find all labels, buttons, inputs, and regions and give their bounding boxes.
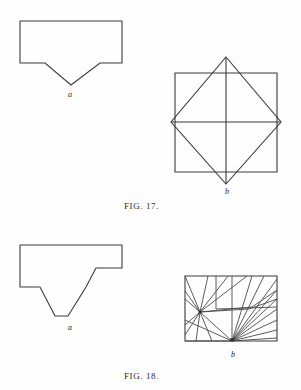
fig-17-a-shape — [20, 21, 122, 85]
fig-18-b-left-fan-point — [199, 311, 202, 314]
fig-18-b-cross-lines — [185, 276, 277, 341]
fig-18-b-point-label: b — [231, 351, 235, 359]
fig-18-b-shape — [185, 276, 277, 341]
fig-17-a-point-label: a — [68, 91, 72, 99]
fig-17-b-point-label: b — [225, 188, 229, 196]
page-canvas: a b a b FIG. 17. FIG. 18. — [0, 0, 301, 390]
fig-18-b-bottom-fan-point — [230, 338, 233, 341]
fig-17-b-shape — [171, 57, 281, 184]
fig-18-b-bottom-fan-rays — [185, 276, 277, 341]
fig-18-caption: FIG. 18. — [124, 372, 159, 381]
fig-18-a-point-label: a — [68, 324, 72, 332]
fig-17-caption: FIG. 17. — [124, 202, 159, 211]
fig-18-b-left-fan-rays — [185, 276, 252, 341]
fig-18-a-shape — [20, 245, 122, 316]
figures-vector-layer — [0, 0, 301, 390]
